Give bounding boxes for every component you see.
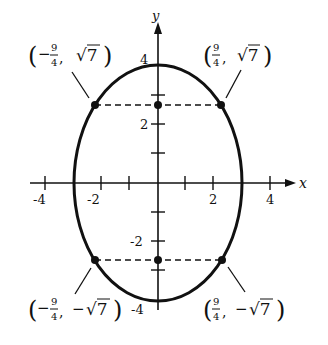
svg-text:√7: √7: [76, 45, 98, 65]
svg-text:,: ,: [59, 304, 63, 320]
svg-text:√7: √7: [86, 299, 108, 319]
point-lower-center: [154, 256, 162, 264]
point-lower-left: [91, 256, 99, 264]
x-axis: x -4 -2 2 4: [30, 175, 307, 207]
y-tick-neg4: -4: [131, 302, 144, 317]
x-tick-4: 4: [266, 192, 274, 207]
label-upper-right: ( 9 4 , √7 ): [203, 42, 272, 70]
svg-text:4: 4: [213, 57, 219, 68]
svg-text:4: 4: [51, 311, 57, 322]
svg-text:,: ,: [222, 50, 226, 66]
leader-upper-right: [226, 70, 241, 98]
svg-text:9: 9: [213, 296, 219, 307]
leader-lower-right: [228, 267, 245, 292]
svg-text:,: ,: [222, 304, 226, 320]
y-tick-2: 2: [140, 117, 148, 132]
x-axis-label: x: [299, 175, 307, 191]
y-axis-label: y: [151, 8, 160, 23]
svg-text:,: ,: [59, 50, 63, 66]
svg-text:4: 4: [51, 57, 57, 68]
svg-text:−: −: [72, 300, 85, 318]
point-upper-right: [217, 101, 225, 109]
svg-text:9: 9: [51, 42, 57, 53]
label-upper-left: ( − 9 4 , √7 ): [28, 42, 112, 70]
point-upper-center: [154, 101, 162, 109]
point-upper-left: [91, 101, 99, 109]
y-axis-arrow-icon: [154, 22, 162, 34]
svg-text:−: −: [38, 45, 51, 63]
svg-text:): ): [263, 42, 272, 70]
svg-text:−: −: [37, 299, 50, 317]
point-lower-right: [218, 256, 226, 264]
label-lower-right: ( 9 4 , − √7 ): [203, 296, 285, 324]
svg-text:9: 9: [51, 296, 57, 307]
x-axis-arrow-icon: [285, 179, 296, 187]
svg-text:9: 9: [213, 42, 219, 53]
svg-text:−: −: [235, 300, 248, 318]
x-tick-neg4: -4: [33, 192, 46, 207]
svg-text:): ): [103, 42, 112, 70]
y-tick-neg2: -2: [130, 234, 143, 249]
svg-text:(: (: [28, 296, 37, 324]
leader-upper-left: [72, 72, 89, 98]
svg-text:√7: √7: [237, 45, 259, 65]
svg-text:(: (: [203, 42, 212, 70]
y-axis: y 4 2 -2 -4: [130, 8, 165, 317]
svg-text:): ): [276, 296, 285, 324]
svg-text:): ): [113, 296, 122, 324]
svg-text:4: 4: [213, 311, 219, 322]
svg-text:(: (: [203, 296, 212, 324]
svg-text:√7: √7: [249, 299, 271, 319]
ellipse-diagram: x -4 -2 2 4 y 4 2 -2 -4 ( − 9: [0, 0, 328, 345]
x-tick-2: 2: [209, 192, 217, 207]
svg-text:(: (: [28, 42, 37, 70]
x-tick-neg2: -2: [87, 192, 100, 207]
leader-lower-left: [75, 268, 91, 294]
label-lower-left: ( − 9 4 , − √7 ): [28, 296, 122, 324]
